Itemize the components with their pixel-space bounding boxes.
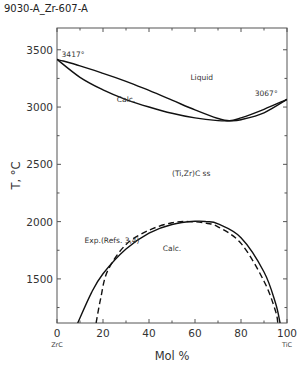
y-tick-label: 2000 <box>26 216 53 228</box>
series-line-1 <box>57 59 287 121</box>
x-tick-label: 100 <box>277 327 297 339</box>
phase-diagram-chart: 9030-A_Zr-607-A 020406080100150020002500… <box>0 0 308 370</box>
y-tick-label: 3500 <box>26 44 53 56</box>
annotation: (Ti,Zr)C ss <box>172 169 210 178</box>
figure-id: 9030-A_Zr-607-A <box>4 3 88 15</box>
annotation: 3067° <box>255 89 278 98</box>
y-tick-label: 1500 <box>26 273 53 285</box>
x-tick-label: 0 <box>54 327 61 339</box>
x-tick-label: 40 <box>142 327 155 339</box>
x-tick-label: 60 <box>188 327 201 339</box>
x-endpoint-label-zrc: ZrC <box>51 341 63 349</box>
annotation: 3417° <box>62 50 85 59</box>
y-tick-label: 2500 <box>26 158 53 170</box>
annotation: Calc. <box>163 244 181 253</box>
y-tick-label: 3000 <box>26 101 53 113</box>
x-axis-label: Mol % <box>155 349 190 363</box>
annotation: Exp.(Refs. 3,4) <box>85 236 140 245</box>
x-tick-label: 80 <box>234 327 247 339</box>
series-line-0 <box>57 59 287 121</box>
x-endpoint-label-tic: TiC <box>281 341 293 349</box>
y-axis-label: T, °C <box>9 161 23 190</box>
x-tick-label: 20 <box>96 327 109 339</box>
annotation: Calc. <box>117 95 135 104</box>
annotation: Liquid <box>190 73 213 82</box>
